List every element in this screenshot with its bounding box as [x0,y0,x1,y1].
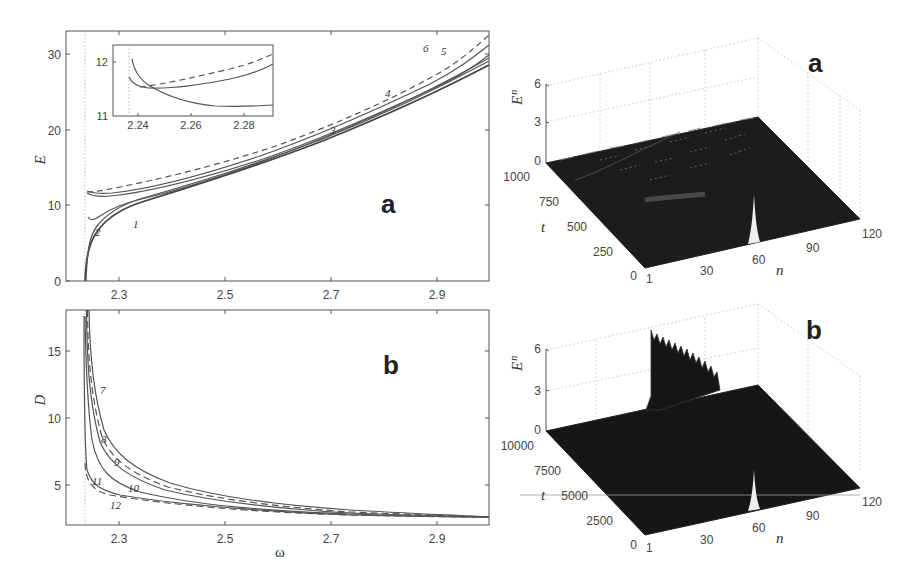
inset-y-tick: 12 [96,56,108,68]
inset-plot: 2.24 2.26 2.28 11 12 [96,45,273,131]
x-tick: 2.7 [323,532,340,546]
panel-label-b-3d: b [806,315,822,345]
curve-label: 12 [110,499,122,511]
n-tick: 30 [700,264,714,278]
z-tick: 6 [534,342,541,356]
t-tick: 0 [630,269,637,283]
z-axis-label: En [508,90,525,106]
curve-label: 2 [95,226,101,238]
y-tick: 30 [48,48,62,62]
n-tick: 60 [752,253,766,267]
n-tick: 120 [862,227,882,241]
x-tick: 2.5 [217,532,234,546]
t-tick: 7500 [534,464,561,478]
y-tick: 15 [48,345,62,359]
inset-x-tick: 2.28 [233,119,254,131]
curve-label: 1 [133,218,139,230]
inset-x-tick: 2.26 [180,119,201,131]
n-tick: 60 [752,521,766,535]
y-tick: 20 [48,124,62,138]
curve-label: 10 [128,482,140,494]
x-tick: 2.5 [217,288,234,302]
energy-plot: 2.3 2.5 2.7 2.9 0 10 20 30 E 1 2 3 4 5 6 [32,31,489,302]
n-tick: 1 [646,272,653,286]
panel-label-a: a [381,189,396,219]
z-tick: 0 [534,154,541,168]
width-plot: 2.3 2.5 2.7 2.9 5 10 15 D ω 7 8 9 10 11 … [32,310,489,560]
t-tick: 5000 [561,489,588,503]
z-axis-label: En [508,356,525,372]
y-tick: 10 [48,199,62,213]
x-tick: 2.9 [429,532,446,546]
x-axis-label-omega: ω [275,544,285,560]
x-tick: 2.9 [429,288,446,302]
n-axis-label: n [776,262,784,278]
curve-label: 5 [441,45,447,57]
t-tick: 750 [539,195,559,209]
t-tick: 250 [593,245,613,259]
n-tick: 90 [806,509,820,523]
surface-plot-b: 6 3 0 En 10000 7500 5000 2500 0 t 1 30 6… [501,304,883,555]
x-tick: 2.3 [111,288,128,302]
x-tick: 2.3 [111,532,128,546]
z-tick: 6 [534,77,541,91]
y-tick: 0 [54,275,61,289]
panel-label-b: b [383,350,399,380]
surface-plot-a: 6 3 0 En 1000 750 500 250 0 t 1 30 60 90… [503,38,882,286]
n-tick: 120 [862,495,882,509]
curve-label: 3 [329,124,336,136]
inset-x-tick: 2.24 [127,119,148,131]
t-tick: 10000 [501,439,535,453]
t-tick: 500 [567,220,587,234]
n-axis-label: n [776,530,784,546]
n-tick: 1 [646,541,653,555]
figure: 2.3 2.5 2.7 2.9 0 10 20 30 E 1 2 3 4 5 6 [0,0,910,581]
panel-label-a-3d: a [808,48,823,78]
curve-label: 4 [385,87,391,99]
curve-label: 7 [100,384,106,396]
t-tick: 0 [630,538,637,552]
z-tick: 0 [534,423,541,437]
curve-label: 8 [101,433,107,445]
t-tick: 2500 [586,514,613,528]
curve-label: 9 [114,456,120,468]
z-tick: 3 [534,384,541,398]
n-tick: 90 [806,241,820,255]
inset-y-tick: 11 [97,110,108,122]
curve-label: 11 [92,475,102,487]
z-tick: 3 [534,115,541,129]
y-axis-label-E: E [32,155,48,165]
width-curves [84,310,489,517]
y-tick: 5 [54,479,61,493]
y-axis-label-D: D [32,394,48,406]
y-tick: 10 [48,412,62,426]
t-axis-label: t [541,219,546,235]
n-tick: 30 [700,533,714,547]
curve-label: 6 [423,42,429,54]
x-tick: 2.7 [323,288,340,302]
t-tick: 1000 [503,170,530,184]
